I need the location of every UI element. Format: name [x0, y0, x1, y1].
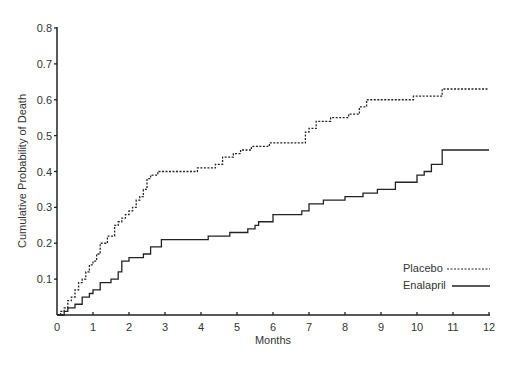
x-tick-label: 8	[342, 321, 348, 333]
y-tick-label: 0.2	[37, 237, 52, 249]
x-tick-label: 6	[270, 321, 276, 333]
y-tick-label: 0.4	[37, 166, 52, 178]
y-tick-label: 0.6	[37, 94, 52, 106]
x-tick-label: 5	[234, 321, 240, 333]
y-tick-label: 0.5	[37, 130, 52, 142]
y-axis-title: Cumulative Probability of Death	[16, 94, 28, 248]
y-ticks: 0.10.20.30.40.50.60.70.8	[37, 22, 57, 285]
y-tick-label: 0.3	[37, 201, 52, 213]
y-tick-label: 0.7	[37, 58, 52, 70]
x-tick-label: 1	[90, 321, 96, 333]
x-tick-label: 0	[54, 321, 60, 333]
x-tick-label: 10	[411, 321, 423, 333]
x-tick-label: 11	[447, 321, 458, 333]
legend: Placebo Enalapril	[403, 262, 490, 291]
legend-label-enalapril: Enalapril	[403, 279, 446, 291]
legend-label-placebo: Placebo	[403, 262, 443, 274]
y-tick-label: 0.8	[37, 22, 52, 34]
y-tick-label: 0.1	[37, 273, 52, 285]
x-tick-label: 9	[378, 321, 384, 333]
x-tick-label: 4	[198, 321, 204, 333]
x-tick-label: 2	[126, 321, 132, 333]
survival-chart: 0.10.20.30.40.50.60.70.8 012345678910111…	[0, 0, 516, 370]
x-axis-title: Months	[255, 334, 292, 346]
x-tick-label: 12	[483, 321, 495, 333]
x-tick-label: 3	[162, 321, 168, 333]
x-tick-label: 7	[306, 321, 312, 333]
